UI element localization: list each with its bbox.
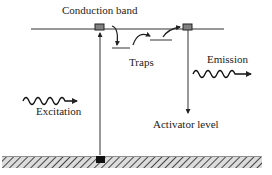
activator-level-label: Activator level bbox=[153, 119, 219, 130]
energy-level-diagram bbox=[0, 0, 272, 175]
ground-state-square bbox=[96, 156, 105, 163]
curved-arrow-between-traps bbox=[133, 34, 150, 45]
valence-band-hatch bbox=[2, 157, 262, 168]
emission-wave-icon bbox=[193, 71, 251, 78]
electron-box-left bbox=[95, 24, 104, 30]
conduction-band-label: Conduction band bbox=[62, 5, 137, 16]
emission-label: Emission bbox=[207, 54, 248, 65]
excitation-label: Excitation bbox=[36, 106, 81, 117]
excitation-wave-icon bbox=[23, 98, 77, 105]
electron-box-right bbox=[183, 24, 192, 30]
traps-label: Traps bbox=[129, 57, 154, 68]
